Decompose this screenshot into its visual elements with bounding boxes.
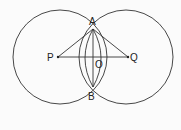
label-B: B	[88, 91, 95, 102]
point-P	[57, 56, 59, 58]
label-A: A	[89, 16, 96, 27]
geometry-diagram: A B P Q O	[0, 0, 181, 130]
point-Q	[127, 56, 129, 58]
label-P: P	[47, 52, 54, 63]
label-Q: Q	[130, 52, 138, 63]
segment-AQ	[93, 29, 128, 57]
lens-arc-left	[85, 29, 93, 87]
label-O: O	[95, 59, 103, 70]
segment-AP	[58, 29, 93, 57]
lens-arc-right	[93, 29, 101, 87]
